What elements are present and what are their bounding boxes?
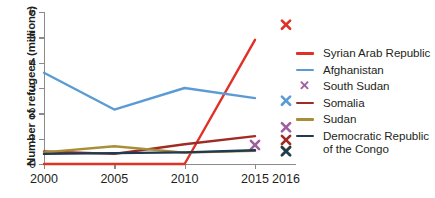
- line-swatch: [296, 118, 314, 121]
- y-tick-label: 2: [29, 107, 36, 120]
- x-marker: [251, 141, 259, 149]
- legend-item-syrian-arab-republic[interactable]: Syrian Arab Republic: [296, 46, 435, 61]
- series-south-sudan: [251, 123, 290, 149]
- series-afghanistan: [44, 73, 290, 110]
- x-glyph: ✕: [299, 78, 310, 94]
- legend-line-swatch-icon: [296, 46, 316, 60]
- x-tick-label-2016: 2016: [272, 172, 300, 186]
- x-marker: [282, 147, 290, 155]
- line-swatch: [296, 102, 314, 105]
- y-tick-label: 4: [29, 56, 36, 69]
- data-series-layer: [44, 12, 296, 164]
- legend-item-label: Syrian Arab Republic: [323, 46, 430, 60]
- y-tick-label: 6: [29, 6, 36, 19]
- series-line: [44, 40, 255, 164]
- legend-item-somalia[interactable]: Somalia: [296, 96, 435, 111]
- x-marker: [282, 136, 290, 144]
- legend-item-label: Democratic Republic of the Congo: [323, 129, 435, 156]
- legend-line-swatch-icon: [296, 63, 316, 77]
- x-tick-label-2000: 2000: [30, 172, 58, 186]
- y-tick-label: 1: [29, 132, 36, 145]
- legend-item-label: Sudan: [323, 112, 356, 126]
- legend-item-south-sudan[interactable]: ✕South Sudan: [296, 79, 435, 94]
- legend-item-afghanistan[interactable]: Afghanistan: [296, 63, 435, 78]
- line-swatch: [296, 135, 314, 138]
- y-tick-label: 3: [29, 82, 36, 95]
- x-marker: [282, 21, 290, 29]
- y-tick-label: 5: [29, 31, 36, 44]
- x-tick-label-2010: 2010: [171, 172, 199, 186]
- legend-x-marker-icon: ✕: [296, 79, 316, 93]
- legend-item-label: Afghanistan: [323, 63, 384, 77]
- x-tick-label-2005: 2005: [100, 172, 128, 186]
- chart-legend: Syrian Arab RepublicAfghanistan✕South Su…: [296, 46, 435, 157]
- legend-item-democratic-republic-of-the-congo[interactable]: Democratic Republic of the Congo: [296, 129, 435, 156]
- legend-line-swatch-icon: [296, 96, 316, 110]
- line-swatch: [296, 52, 314, 55]
- x-marker: [282, 123, 290, 131]
- refugees-line-chart: Number of refugees (millions) 0123456 20…: [0, 0, 435, 198]
- legend-item-label: Somalia: [323, 96, 365, 110]
- legend-item-label: South Sudan: [323, 79, 390, 93]
- legend-item-sudan[interactable]: Sudan: [296, 112, 435, 127]
- plot-area: 0123456 20002005201020152016: [44, 12, 255, 164]
- legend-line-swatch-icon: [296, 129, 316, 143]
- series-line: [44, 73, 255, 110]
- y-tick-label: 0: [29, 158, 36, 171]
- x-marker: [282, 97, 290, 105]
- line-swatch: [296, 69, 314, 72]
- x-tick-label-2015: 2015: [241, 172, 269, 186]
- x-tick-mark-2015: [255, 164, 256, 169]
- legend-line-swatch-icon: [296, 112, 316, 126]
